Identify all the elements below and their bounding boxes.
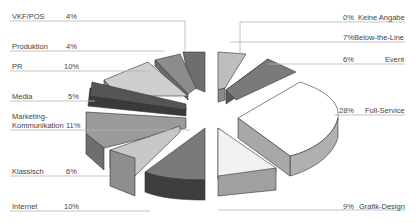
pct-klassisch: 6% [66,167,77,176]
pct-pr: 10% [64,62,79,71]
label-below-the-line: Below-the-Line [354,33,404,42]
pct-media: 5% [68,92,79,101]
label-produktion: Produktion [12,42,48,51]
label-pr: PR [12,62,22,71]
pct-internet: 10% [64,202,79,211]
label-internet: Internet [12,202,37,211]
label-grafik-design: Grafik-Design [359,202,405,211]
pct-produktion: 4% [66,42,77,51]
label-media: Media [12,92,32,101]
label-keine-angabe: Keine Angabe [358,13,405,22]
pct-marketing-kommunikation: 11% [66,121,80,130]
pie-chart: VKF/POS 4% Produktion 4% PR 10% Media 5%… [0,0,416,223]
label-event: Event [385,55,404,64]
pct-full-service: 28% [339,106,354,115]
label-klassisch: Klassisch [12,167,44,176]
pct-event: 6% [343,55,354,64]
label-kommunikation: Kommunikation [12,121,64,130]
pct-vkf-pos: 4% [66,12,77,21]
pct-keine-angabe: 0% [343,13,354,22]
label-marketing: Marketing- [12,112,47,121]
pct-below-the-line: 7% [343,33,354,42]
pct-grafik-design: 9% [343,202,354,211]
label-full-service: Full-Service [365,106,405,115]
label-vkf-pos: VKF/POS [12,12,45,21]
